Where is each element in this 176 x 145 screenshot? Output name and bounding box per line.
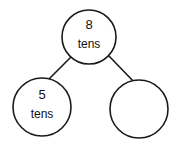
left-part-value-text: 5 (38, 87, 45, 102)
number-bond-canvas: 8 tens 5 tens (0, 0, 176, 145)
left-part-unit-text: tens (31, 107, 54, 121)
bond-link-total-to-right-part (109, 56, 135, 83)
right-part-circle-empty[interactable] (110, 80, 168, 138)
number-bond-diagram: 8 tens 5 tens (0, 0, 176, 145)
total-unit-text: tens (78, 37, 101, 51)
total-value-text: 8 (85, 17, 92, 32)
